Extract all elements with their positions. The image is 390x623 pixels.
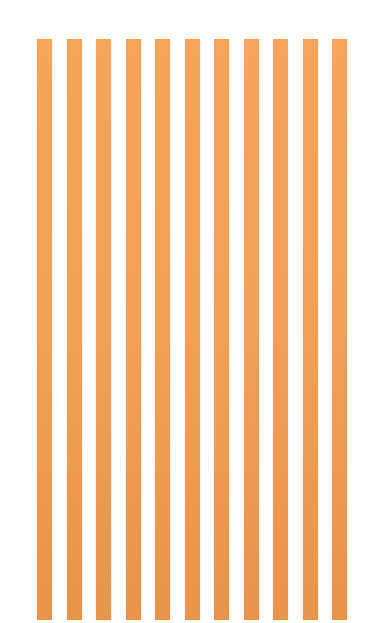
orange-stripe (332, 39, 347, 620)
orange-stripe (273, 39, 288, 620)
orange-stripe (96, 39, 111, 620)
striped-image (0, 0, 390, 623)
orange-stripe (214, 39, 229, 620)
orange-stripe (303, 39, 318, 620)
orange-stripe (67, 39, 82, 620)
orange-stripe (155, 39, 170, 620)
orange-stripe (37, 39, 52, 620)
orange-stripe (126, 39, 141, 620)
orange-stripe (244, 39, 259, 620)
orange-stripe (185, 39, 200, 620)
